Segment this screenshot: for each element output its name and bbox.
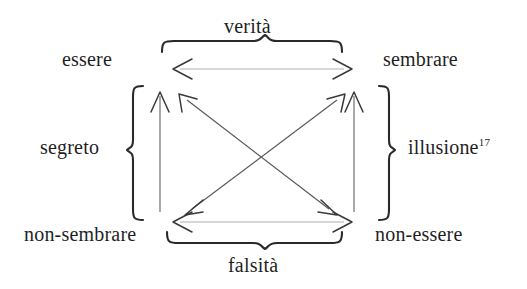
arrow-bottom-horizontal (173, 212, 352, 232)
corner-label-non-sembrare: non-sembrare (24, 224, 136, 244)
arrow-left-vertical (151, 92, 169, 212)
arrow-right-vertical (345, 92, 363, 212)
corner-label-non-essere: non-essere (375, 224, 463, 244)
top-brace (162, 35, 342, 52)
left-brace (127, 86, 143, 220)
arrow-diagonal-ne-sw (185, 94, 345, 215)
arrow-diagonal-nw-se (179, 94, 337, 215)
right-brace (379, 86, 395, 220)
footnote-marker: 17 (479, 136, 490, 148)
corner-label-essere: essere (62, 49, 112, 69)
arrow-top-horizontal (173, 59, 352, 79)
bottom-brace (167, 232, 342, 249)
brace-label-verita: verità (224, 16, 271, 36)
brace-label-illusione: illusione17 (408, 137, 490, 157)
brace-label-segreto: segreto (40, 137, 99, 157)
brace-label-illusione-text: illusione (408, 136, 479, 158)
brace-label-falsita: falsità (228, 255, 278, 275)
corner-label-sembrare: sembrare (383, 49, 458, 69)
